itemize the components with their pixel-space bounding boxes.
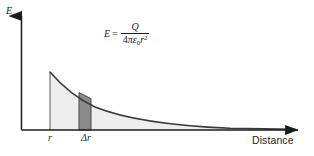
y-axis-label: E [6, 5, 12, 16]
field-equation: E = Q 4πε0r2 [104, 22, 149, 45]
tick-label-delta-r: Δr [73, 132, 99, 143]
x-axis-label: Distance [252, 134, 294, 146]
equation-fraction: Q 4πε0r2 [121, 22, 150, 45]
electric-field-figure: E Distance r Δr E = Q 4πε0r2 [0, 0, 314, 156]
equation-equals-sign: = [112, 28, 118, 39]
tick-label-r: r [41, 132, 59, 143]
equation-denominator: 4πε0r2 [121, 34, 150, 46]
denominator-r-exponent: 2 [144, 34, 147, 41]
equation-lhs: E [104, 28, 110, 39]
equation-numerator: Q [127, 22, 142, 33]
